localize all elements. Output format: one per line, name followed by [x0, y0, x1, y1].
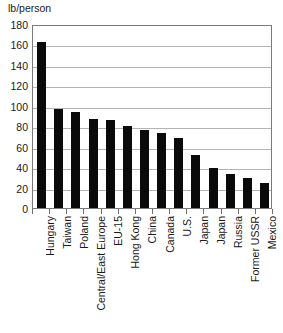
bar	[37, 42, 46, 208]
bar	[243, 178, 252, 208]
bar	[71, 112, 80, 208]
gridline	[33, 108, 271, 109]
x-axis-category-label: Japan	[199, 216, 210, 326]
x-axis-category-label: Central/East Europe	[96, 216, 107, 326]
gridline	[33, 67, 271, 68]
x-axis-tick	[169, 209, 170, 214]
y-axis-tick-label: 0	[2, 204, 28, 214]
x-axis-category-label: Hungary	[45, 216, 56, 326]
y-axis-tick-label: 140	[2, 61, 28, 71]
bar	[54, 109, 63, 208]
y-axis-tick-label: 60	[2, 143, 28, 153]
bar	[106, 120, 115, 208]
x-axis-tick	[118, 209, 119, 214]
bar	[260, 183, 269, 208]
x-axis-tick	[186, 209, 187, 214]
bar	[191, 155, 200, 208]
x-axis-tick	[32, 209, 33, 214]
x-axis-category-label: Japan	[216, 216, 227, 326]
x-axis-tick	[101, 209, 102, 214]
bar	[157, 133, 166, 208]
y-axis-tick-label: 40	[2, 163, 28, 173]
x-axis-tick	[221, 209, 222, 214]
x-axis-category-label: Russia	[233, 216, 244, 326]
x-axis-category-label: Mexico	[267, 216, 278, 326]
x-axis-tick	[49, 209, 50, 214]
x-axis-category-label: Former USSR	[250, 216, 261, 326]
bar	[209, 168, 218, 208]
gridline	[33, 169, 271, 170]
x-axis-tick	[83, 209, 84, 214]
x-axis-category-label: Poland	[79, 216, 90, 326]
bar	[226, 174, 235, 208]
y-axis-tick-label: 180	[2, 20, 28, 30]
x-axis-tick	[255, 209, 256, 214]
gridline	[33, 46, 271, 47]
y-axis-tick-label: 80	[2, 122, 28, 132]
gridline	[33, 190, 271, 191]
bar	[174, 138, 183, 208]
y-axis-tick-label: 120	[2, 81, 28, 91]
x-axis-tick	[135, 209, 136, 214]
y-axis-tick-label: 20	[2, 184, 28, 194]
gridline	[33, 149, 271, 150]
x-axis-category-label: Hong Kong	[130, 216, 141, 326]
x-axis-category-label: U.S.	[182, 216, 193, 326]
x-axis-category-label: EU-15	[113, 216, 124, 326]
plot-area	[32, 25, 272, 209]
bar	[123, 126, 132, 208]
x-axis-tick	[203, 209, 204, 214]
y-axis-tick-label: 100	[2, 102, 28, 112]
bar-chart: lb/person 180160140120100806040200Hungar…	[0, 0, 283, 333]
gridline	[33, 128, 271, 129]
bar	[89, 119, 98, 208]
gridline	[33, 87, 271, 88]
bar	[140, 130, 149, 208]
x-axis-tick	[272, 209, 273, 214]
x-axis-tick	[238, 209, 239, 214]
x-axis-category-label: Canada	[165, 216, 176, 326]
y-axis-tick-label: 160	[2, 40, 28, 50]
x-axis-tick	[66, 209, 67, 214]
x-axis-category-label: Taiwan	[62, 216, 73, 326]
x-axis-category-label: China	[147, 216, 158, 326]
x-axis-tick	[152, 209, 153, 214]
y-axis-unit-label: lb/person	[8, 2, 51, 14]
